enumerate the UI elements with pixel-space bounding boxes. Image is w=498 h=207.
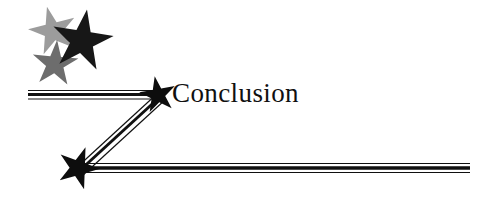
conclusion-header-graphic: Conclusion [0, 0, 498, 207]
page-title: Conclusion [172, 78, 299, 108]
